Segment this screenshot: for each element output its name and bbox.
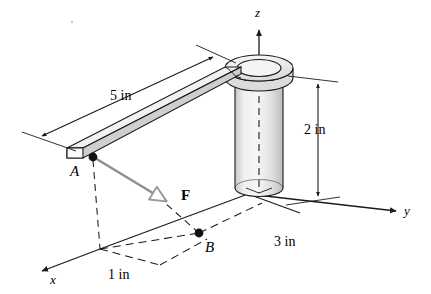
point-B-label: B [205,240,214,255]
z-axis-label: z [255,6,260,19]
dim-5in-ext-left [22,132,76,151]
diagram-canvas [0,0,431,294]
arm-top-face [67,67,241,148]
dimension-arm-length-label: 5 in [110,89,131,103]
force-diagram-figure: z y x A B F 5 in 2 in 3 in 1 in [0,0,431,294]
projection-A-to-origin [93,160,100,249]
projection-origin-to-B [100,233,199,249]
point-A-marker [89,153,98,162]
arm-end-cap [67,148,83,158]
dimension-y-offset-label: 3 in [274,235,295,249]
ground-edge-origin-to-base [100,194,248,249]
x-axis-label: x [50,273,56,286]
force-label: F [181,188,190,203]
ground-plane [100,194,300,249]
projection-B-to-y-axis [199,203,262,233]
dimension-post-height-label: 2 in [304,123,325,137]
dim-5in-ext-right [196,45,236,63]
dimension-x-offset-label: 1 in [108,268,129,282]
dimension-post-height [286,76,340,205]
dim-2in-ext-top [288,76,338,82]
y-axis-label: y [404,204,410,217]
projection-origin-lower-edge [100,249,160,265]
scan-speck [71,21,73,23]
x-axis [42,249,100,271]
force-vector-line [95,158,166,201]
point-B-marker [195,229,204,238]
point-A-label: A [70,164,79,179]
force-vector-F [95,158,166,201]
projection-lower-edge-to-B [160,239,207,265]
